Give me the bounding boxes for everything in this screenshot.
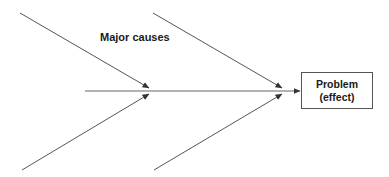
branch-top-left [20,13,149,88]
major-causes-label: Major causes [100,31,170,43]
effect-box: Problem (effect) [301,72,373,109]
branch-top-right [153,13,282,88]
fishbone-diagram: Major causes Problem (effect) [0,0,389,177]
branch-bottom-left [22,94,149,170]
branch-bottom-right [154,94,282,170]
effect-subtitle: (effect) [319,91,354,104]
effect-title: Problem [316,78,358,91]
